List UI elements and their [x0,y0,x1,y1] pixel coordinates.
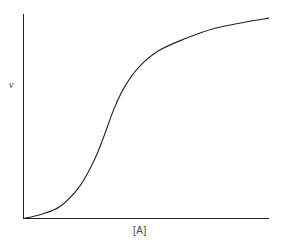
rate-curve [24,18,270,218]
x-axis-label: [A] [133,225,147,236]
sigmoid-chart [0,0,281,248]
y-axis-label: v [9,79,13,90]
